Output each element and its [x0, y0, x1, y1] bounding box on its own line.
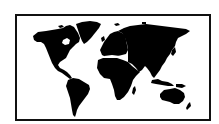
- indonesia: [151, 79, 174, 86]
- australia: [160, 88, 185, 104]
- new-zealand: [186, 102, 191, 110]
- new-guinea: [176, 84, 186, 88]
- madagascar: [132, 86, 136, 95]
- great-britain: [101, 36, 105, 42]
- greenland: [76, 21, 101, 44]
- north-america: [33, 25, 80, 79]
- world-map: [0, 0, 219, 124]
- south-america: [66, 78, 90, 117]
